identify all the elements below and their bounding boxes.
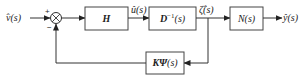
- block-D-inverse: D−1(s): [149, 7, 196, 30]
- block-K-Psi: KΨ(s): [146, 52, 184, 74]
- block-H-label: H: [102, 13, 112, 24]
- block-Dinv-main: D: [159, 13, 167, 24]
- block-N: N(s): [230, 7, 263, 30]
- output-signal-label: ŷ(s): [282, 12, 299, 24]
- minus-sign: −: [47, 23, 52, 32]
- block-KPsi-main: KΨ: [151, 57, 168, 68]
- summing-junction-icon: [51, 13, 62, 24]
- svg-text:KΨ(s): KΨ(s): [151, 57, 178, 69]
- signal-u-label: û(s): [131, 4, 147, 16]
- block-Dinv-arg: (s): [175, 13, 186, 25]
- plus-sign: +: [45, 7, 50, 16]
- block-H: H: [85, 7, 128, 30]
- input-signal-label: v̂(s): [6, 12, 22, 24]
- svg-text:N(s): N(s): [237, 13, 256, 25]
- block-KPsi-arg: (s): [167, 57, 178, 69]
- block-N-arg: (s): [245, 13, 256, 25]
- signal-zeta-label: ζ̂(s): [199, 4, 214, 16]
- block-diagram: v̂(s) + − H û(s) D−1(s) ζ̂(s) N(s) ŷ(s): [0, 0, 307, 81]
